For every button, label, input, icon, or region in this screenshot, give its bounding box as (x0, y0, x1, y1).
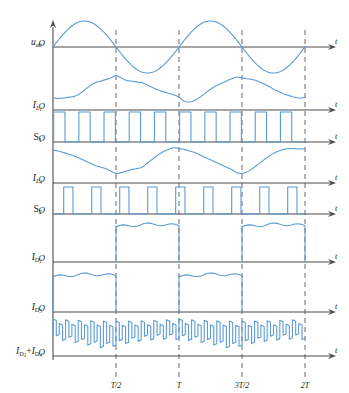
time-axis-label-uab: t (335, 37, 338, 46)
trace-s2 (53, 187, 305, 214)
time-axis-label-id3: t (335, 302, 338, 311)
trace-id3 (53, 273, 242, 312)
time-axis-label-s2: t (335, 204, 338, 213)
x-tick-label-T/2: T/2 (111, 381, 122, 390)
trace-id1-plus-id4 (53, 319, 305, 348)
waveform-svg: tOtOtOtOtOtOtOtOuabIL1S1IL4S2ID1ID3ID1+I… (0, 0, 349, 393)
x-tick-label-3T/2: 3T/2 (234, 381, 250, 390)
time-axis-label-id1: t (335, 252, 338, 261)
trace-s1 (53, 112, 305, 142)
x-tick-label-2T: 2T (301, 381, 310, 390)
x-tick-label-T: T (177, 381, 182, 390)
time-axis-label-s1: t (335, 132, 338, 141)
time-axis-label-il4: t (335, 173, 338, 182)
time-axis-label-id1d4: t (335, 346, 338, 355)
trace-id1 (116, 223, 305, 262)
time-axis-label-il1: t (335, 100, 338, 109)
vertical-axis-arrow (50, 20, 56, 28)
waveform-figure: tOtOtOtOtOtOtOtOuabIL1S1IL4S2ID1ID3ID1+I… (0, 0, 349, 393)
